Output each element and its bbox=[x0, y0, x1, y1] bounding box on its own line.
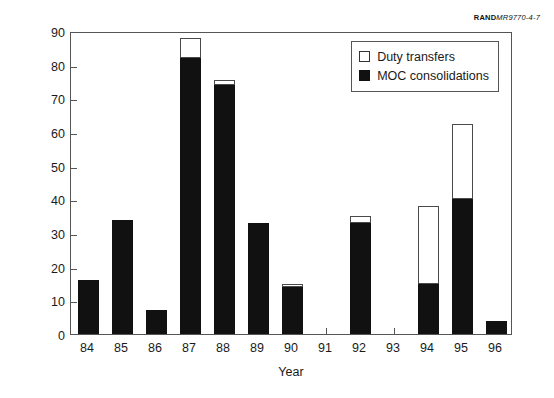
bar-group-90[interactable] bbox=[282, 31, 303, 334]
y-tick-mark bbox=[71, 302, 77, 303]
y-tick-label-60: 60 bbox=[35, 128, 65, 141]
bar-segment-transfers-95[interactable] bbox=[452, 124, 473, 200]
bar-group-87[interactable] bbox=[180, 31, 201, 334]
bar-segment-consolidations-86[interactable] bbox=[146, 310, 167, 334]
legend-swatch-solid-icon bbox=[359, 70, 370, 81]
chart-legend: Duty transfers MOC consolidations bbox=[351, 41, 499, 92]
y-tick-mark bbox=[71, 235, 77, 236]
bar-group-86[interactable] bbox=[146, 31, 167, 334]
x-axis-title: Year bbox=[70, 365, 512, 379]
bar-segment-consolidations-92[interactable] bbox=[350, 223, 371, 334]
bar-segment-transfers-87[interactable] bbox=[180, 38, 201, 58]
bar-group-84[interactable] bbox=[78, 31, 99, 334]
bar-segment-consolidations-84[interactable] bbox=[78, 280, 99, 334]
legend-item-duty-transfers: Duty transfers bbox=[359, 47, 489, 66]
bar-group-89[interactable] bbox=[248, 31, 269, 334]
y-tick-label-0: 0 bbox=[35, 330, 65, 343]
source-credit: RANDMR9770-4-7 bbox=[474, 13, 540, 22]
x-tick-mark-93 bbox=[394, 328, 395, 334]
legend-swatch-open-icon bbox=[359, 51, 370, 62]
bar-segment-transfers-88[interactable] bbox=[214, 80, 235, 85]
figure-container: RANDMR9770-4-7 Number of MOC changes 010… bbox=[0, 0, 554, 398]
source-credit-doc: MR9770-4-7 bbox=[496, 13, 540, 22]
source-credit-rand: RAND bbox=[474, 13, 496, 22]
bar-segment-consolidations-89[interactable] bbox=[248, 223, 269, 334]
y-tick-label-30: 30 bbox=[35, 229, 65, 242]
bar-segment-consolidations-87[interactable] bbox=[180, 58, 201, 334]
y-tick-label-80: 80 bbox=[35, 61, 65, 74]
y-tick-mark bbox=[71, 168, 77, 169]
bar-segment-transfers-90[interactable] bbox=[282, 284, 303, 287]
y-tick-mark bbox=[71, 201, 77, 202]
y-tick-label-40: 40 bbox=[35, 195, 65, 208]
bar-segment-consolidations-96[interactable] bbox=[486, 321, 507, 334]
bar-group-88[interactable] bbox=[214, 31, 235, 334]
y-tick-mark bbox=[71, 67, 77, 68]
bar-segment-transfers-92[interactable] bbox=[350, 216, 371, 223]
y-tick-mark bbox=[71, 100, 77, 101]
y-tick-label-10: 10 bbox=[35, 296, 65, 309]
bar-segment-consolidations-95[interactable] bbox=[452, 199, 473, 334]
y-tick-label-70: 70 bbox=[35, 94, 65, 107]
y-tick-label-50: 50 bbox=[35, 162, 65, 175]
y-tick-label-90: 90 bbox=[35, 27, 65, 40]
bar-segment-consolidations-94[interactable] bbox=[418, 284, 439, 335]
bar-segment-transfers-94[interactable] bbox=[418, 206, 439, 283]
legend-label-moc-consolidations: MOC consolidations bbox=[377, 69, 489, 83]
legend-item-moc-consolidations: MOC consolidations bbox=[359, 66, 489, 85]
y-tick-label-20: 20 bbox=[35, 263, 65, 276]
legend-label-duty-transfers: Duty transfers bbox=[377, 50, 455, 64]
bar-segment-consolidations-88[interactable] bbox=[214, 85, 235, 334]
bar-segment-consolidations-85[interactable] bbox=[112, 220, 133, 334]
y-tick-mark bbox=[71, 269, 77, 270]
y-tick-mark bbox=[71, 134, 77, 135]
bar-segment-consolidations-90[interactable] bbox=[282, 287, 303, 334]
plot-area: 0102030405060708090 Duty transfers MOC c… bbox=[70, 32, 512, 335]
x-tick-label-96: 96 bbox=[475, 341, 515, 355]
bar-group-85[interactable] bbox=[112, 31, 133, 334]
x-tick-mark-91 bbox=[326, 328, 327, 334]
